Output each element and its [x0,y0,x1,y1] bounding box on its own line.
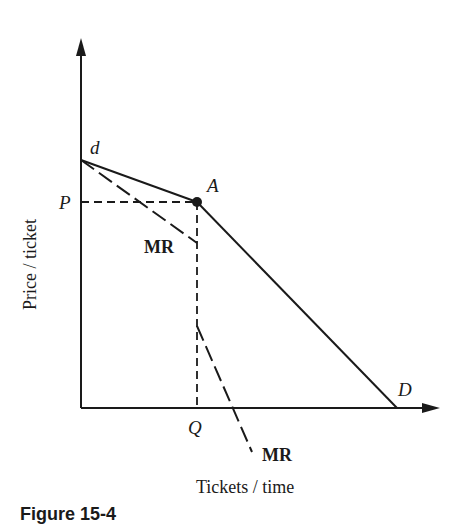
demand-segment-dA [81,160,197,202]
demand-segment-AD [197,202,397,408]
label-D: D [398,380,412,399]
label-mr-lower: MR [262,446,292,464]
x-axis-arrow-icon [422,403,440,413]
y-axis-title: Price / ticket [20,219,41,310]
label-d: d [90,138,100,157]
y-axis-arrow-icon [76,38,86,56]
kink-point-A [192,197,202,207]
figure-caption: Figure 15-4 [20,504,116,525]
x-axis-title: Tickets / time [196,478,294,496]
label-Q: Q [188,418,202,437]
label-mr-upper: MR [144,238,174,256]
label-A: A [207,176,219,195]
mr-lower-segment [197,326,252,452]
label-P: P [59,193,71,212]
